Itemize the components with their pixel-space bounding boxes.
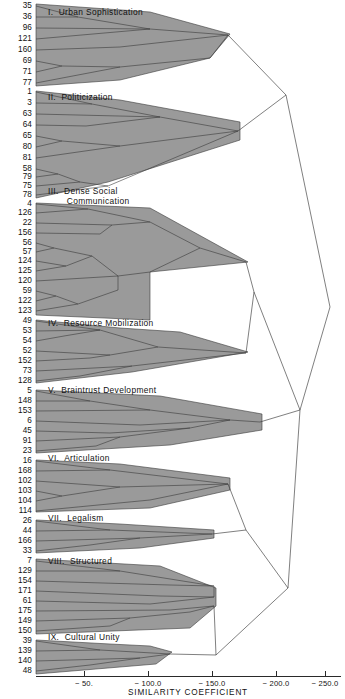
link-III-join xyxy=(246,262,254,292)
leaf-label: 36 xyxy=(2,13,32,21)
leaf-label: 49 xyxy=(2,317,32,325)
link-VIII-join xyxy=(214,606,216,655)
leaf-label: 154 xyxy=(2,577,32,585)
leaf-label: 114 xyxy=(2,507,32,515)
link-lower-to-upper xyxy=(288,410,300,588)
link-IX-join xyxy=(170,654,216,655)
leaf-label: 171 xyxy=(2,587,32,595)
leaf-label: 52 xyxy=(2,347,32,355)
cluster-title-ix: IX. Cultural Unity xyxy=(48,632,120,642)
leaf-label: 33 xyxy=(2,547,32,555)
leaf-label: 123 xyxy=(2,307,32,315)
cluster-title-ii: II. Politicization xyxy=(48,92,113,102)
axis-baseline xyxy=(36,676,341,677)
leaf-label: 160 xyxy=(2,46,32,54)
leaf-label: 121 xyxy=(2,35,32,43)
cluster-title-i: I. Urban Sophistication xyxy=(48,7,143,17)
link-I-II-to-root xyxy=(286,95,330,307)
leaf-label: 150 xyxy=(2,627,32,635)
leaf-label: 75 xyxy=(2,182,32,190)
leaf-label: 57 xyxy=(2,248,32,256)
axis-tick-label: − 150.0 xyxy=(199,679,226,688)
cluster-polygon-VI xyxy=(36,460,230,512)
axis-tick-label: − 50. xyxy=(75,679,93,688)
link-IIIIV-to-V-node xyxy=(254,292,300,410)
leaf-label: 63 xyxy=(2,110,32,118)
cluster-title-viii: VIII. Structured xyxy=(48,556,112,566)
leaf-label: 65 xyxy=(2,132,32,140)
axis-tick-label: − 250.0 xyxy=(312,679,339,688)
leaf-label: 122 xyxy=(2,297,32,305)
leaf-label: 59 xyxy=(2,287,32,295)
link-VI-join xyxy=(228,484,246,530)
link-IV-join xyxy=(246,292,254,353)
leaf-label: 149 xyxy=(2,617,32,625)
cluster-title-v: V. Braintrust Development xyxy=(48,385,156,395)
leaf-label: 126 xyxy=(2,209,32,217)
leaf-label: 91 xyxy=(2,437,32,445)
leaf-label: 103 xyxy=(2,487,32,495)
cluster-polygon-IV xyxy=(36,320,248,383)
leaf-label: 5 xyxy=(2,387,32,395)
cluster-polygon-V xyxy=(36,390,262,453)
axis-title: SIMILARITY COEFFICIENT xyxy=(128,688,248,697)
leaf-label: 26 xyxy=(2,517,32,525)
link-II-up xyxy=(238,95,286,131)
leaf-label: 125 xyxy=(2,267,32,275)
leaf-label: 39 xyxy=(2,637,32,645)
leaf-label: 102 xyxy=(2,477,32,485)
leaf-label: 175 xyxy=(2,607,32,615)
axis-tick-mark xyxy=(325,671,326,676)
leaf-label: 81 xyxy=(2,154,32,162)
link-I-II xyxy=(228,35,286,95)
leaf-label: 79 xyxy=(2,173,32,181)
leaf-label: 56 xyxy=(2,239,32,247)
cluster-title-iv: IV. Resource Mobilization xyxy=(48,318,154,328)
leaf-label: 53 xyxy=(2,327,32,335)
leaf-label: 96 xyxy=(2,24,32,32)
link-VIVII-to-node xyxy=(246,530,288,588)
cluster-title-vi: VI. Articulation xyxy=(48,453,110,463)
leaf-label: 6 xyxy=(2,417,32,425)
leaf-label: 61 xyxy=(2,597,32,605)
axis-tick-mark xyxy=(148,671,149,676)
leaf-label: 148 xyxy=(2,397,32,405)
axis-tick-mark xyxy=(212,671,213,676)
leaf-label: 23 xyxy=(2,447,32,455)
leaf-label: 7 xyxy=(2,557,32,565)
leaf-label: 45 xyxy=(2,427,32,435)
leaf-label: 73 xyxy=(2,367,32,375)
dendrogram-figure: 3536961211606971771363646580815879757841… xyxy=(0,0,345,699)
cluster-title-iii: III. Dense Social Communication xyxy=(48,186,129,206)
leaf-label: 71 xyxy=(2,68,32,76)
link-VII-join xyxy=(212,530,246,534)
cluster-polygons xyxy=(36,4,262,674)
cluster-title-vii: VII. Legalism xyxy=(48,513,104,523)
leaf-label: 64 xyxy=(2,121,32,129)
leaf-label: 139 xyxy=(2,647,32,655)
leaf-label: 168 xyxy=(2,467,32,475)
leaf-label: 54 xyxy=(2,337,32,345)
link-V-to-node xyxy=(260,410,300,422)
axis-tick-mark xyxy=(276,671,277,676)
leaf-label: 128 xyxy=(2,377,32,385)
axis-tick-label: − 100.0 xyxy=(135,679,162,688)
axis-tick-label: − 200.0 xyxy=(263,679,290,688)
leaf-label: 78 xyxy=(2,191,32,199)
leaf-label: 4 xyxy=(2,200,32,208)
dendrogram-canvas xyxy=(0,0,345,699)
leaf-label: 120 xyxy=(2,277,32,285)
leaf-label: 48 xyxy=(2,667,32,675)
leaf-label: 153 xyxy=(2,407,32,415)
cluster-polygon-II xyxy=(36,91,240,198)
leaf-label: 156 xyxy=(2,229,32,237)
leaf-label: 166 xyxy=(2,537,32,545)
leaf-label: 80 xyxy=(2,143,32,151)
leaf-label: 3 xyxy=(2,99,32,107)
leaf-label: 16 xyxy=(2,457,32,465)
leaf-label: 129 xyxy=(2,567,32,575)
leaf-label: 69 xyxy=(2,57,32,65)
leaf-label: 140 xyxy=(2,657,32,665)
leaf-label: 124 xyxy=(2,257,32,265)
axis-tick-mark xyxy=(84,671,85,676)
